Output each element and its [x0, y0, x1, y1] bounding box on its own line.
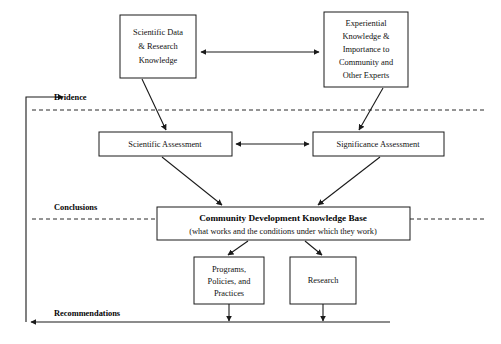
node-programs-policies-practices[interactable]: Programs, Policies, and Practices	[194, 257, 264, 304]
node-knowledge-base-title: Community Development Knowledge Base	[199, 213, 367, 223]
node-programs-line-3: Practices	[214, 289, 244, 298]
band-label-conclusions: Conclusions	[54, 203, 98, 212]
node-scientific-data-line-1: Scientific Data	[133, 28, 183, 37]
node-scientific-assessment[interactable]: Scientific Assessment	[99, 132, 232, 156]
node-experiential-knowledge-line-1: Experiential	[346, 19, 388, 28]
node-scientific-data-line-2: & Research	[138, 42, 178, 51]
node-experiential-knowledge-line-4: Community and	[339, 58, 394, 67]
knowledge-base-to-programs-arrow	[228, 241, 248, 255]
node-significance-assessment-label: Significance Assessment	[336, 140, 420, 149]
node-experiential-knowledge-line-5: Other Experts	[343, 71, 390, 80]
node-scientific-data[interactable]: Scientific Data & Research Knowledge	[120, 15, 196, 78]
scientific-data-to-scientific-assessment-arrow	[142, 79, 166, 130]
node-experiential-knowledge-line-3: Importance to	[343, 45, 390, 54]
node-experiential-knowledge-line-2: Knowledge &	[342, 32, 390, 41]
node-significance-assessment[interactable]: Significance Assessment	[313, 132, 444, 156]
scientific-assessment-to-knowledge-base-arrow	[162, 157, 222, 205]
band-label-evidence: Evidence	[54, 93, 87, 102]
node-programs-line-2: Policies, and	[208, 277, 252, 286]
significance-assessment-to-knowledge-base-arrow	[318, 157, 380, 205]
band-label-recommendations: Recommendations	[54, 309, 121, 318]
knowledge-framework-diagram: Scientific Data & Research Knowledge Exp…	[0, 0, 501, 344]
node-experiential-knowledge[interactable]: Experiential Knowledge & Importance to C…	[324, 12, 408, 87]
knowledge-base-to-research-arrow	[305, 241, 322, 255]
node-programs-line-1: Programs,	[212, 265, 246, 274]
node-scientific-data-line-3: Knowledge	[139, 56, 178, 65]
flow-canvas: Scientific Data & Research Knowledge Exp…	[0, 0, 501, 344]
node-scientific-assessment-label: Scientific Assessment	[128, 140, 202, 149]
experiential-to-significance-assessment-arrow	[359, 88, 383, 130]
node-knowledge-base[interactable]: Community Development Knowledge Base (wh…	[157, 207, 410, 240]
node-research-label: Research	[308, 276, 340, 285]
node-knowledge-base-subtitle: (what works and the conditions under whi…	[189, 227, 377, 236]
node-research[interactable]: Research	[290, 257, 356, 304]
